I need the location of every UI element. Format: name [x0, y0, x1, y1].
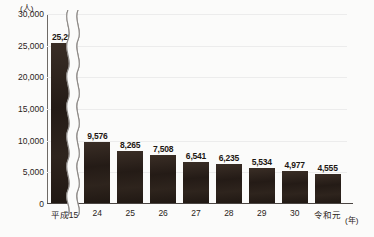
bar-value-label: 5,534 — [252, 157, 272, 167]
bar — [117, 151, 143, 203]
gridline — [47, 46, 347, 47]
bar-value-label: 9,576 — [87, 131, 107, 141]
y-axis-tick-label: 15,000 — [0, 104, 44, 114]
x-axis-tick-label: 25 — [125, 208, 134, 218]
bar — [183, 162, 209, 203]
y-axis-tick-label: 5,000 — [0, 167, 44, 177]
bar-value-label: 25,296 — [52, 32, 77, 42]
bar — [216, 164, 242, 203]
gridline — [47, 14, 347, 15]
bar-value-label: 7,508 — [153, 144, 173, 154]
bar-value-label: 4,555 — [317, 163, 337, 173]
y-axis-tick-label: 10,000 — [0, 136, 44, 146]
bar-value-label: 4,977 — [285, 160, 305, 170]
x-axis-tick-label: 平成15 — [51, 208, 78, 220]
bar-chart: (人) (年) 05,00010,00015,00020,00025,00030… — [0, 0, 374, 237]
x-axis-tick-label: 26 — [158, 208, 167, 218]
gridline — [47, 77, 347, 78]
y-axis-tick-labels: 05,00010,00015,00020,00025,00030,000 — [0, 0, 44, 237]
x-axis-tick-label: 28 — [224, 208, 233, 218]
bar — [51, 43, 77, 203]
x-axis-tick-label: 24 — [93, 208, 102, 218]
bar — [249, 168, 275, 203]
bar — [84, 142, 110, 203]
x-axis-tick-label: 令和元 — [314, 208, 341, 220]
bar — [150, 155, 176, 203]
y-axis-tick-label: 0 — [0, 199, 44, 209]
bar — [315, 174, 341, 203]
x-axis-tick-label: 30 — [290, 208, 299, 218]
plot-area: 25,2969,5768,2657,5086,5416,2355,5344,97… — [47, 14, 343, 204]
x-axis-line — [47, 203, 353, 204]
bar — [282, 171, 308, 203]
x-axis-tick-label: 27 — [191, 208, 200, 218]
x-axis-unit-label: (年) — [345, 214, 358, 225]
y-axis-tick-label: 25,000 — [0, 41, 44, 51]
x-axis-tick-label: 29 — [257, 208, 266, 218]
bar-value-label: 8,265 — [120, 140, 140, 150]
bar-value-label: 6,235 — [219, 153, 239, 163]
bar-value-label: 6,541 — [186, 151, 206, 161]
gridline — [47, 109, 347, 110]
y-axis-tick-label: 20,000 — [0, 72, 44, 82]
y-axis-tick-label: 30,000 — [0, 9, 44, 19]
